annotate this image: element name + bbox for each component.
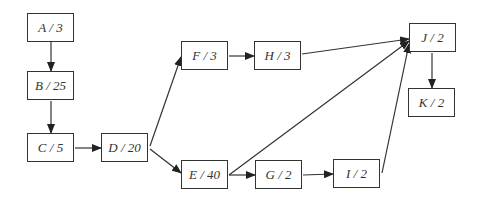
node-d: D / 20 xyxy=(101,133,148,162)
node-g-label: G / 2 xyxy=(266,167,292,183)
edge-h-j xyxy=(302,39,409,54)
node-i-label: I / 2 xyxy=(346,166,367,182)
node-k-label: K / 2 xyxy=(419,95,444,111)
edge-g-i xyxy=(303,174,333,175)
node-b: B / 25 xyxy=(27,71,74,100)
node-i: I / 2 xyxy=(333,159,380,188)
node-d-label: D / 20 xyxy=(108,140,141,156)
node-c-label: C / 5 xyxy=(38,140,63,156)
node-f: F / 3 xyxy=(181,41,228,70)
node-a: A / 3 xyxy=(27,13,74,42)
node-f-label: F / 3 xyxy=(192,48,217,64)
node-g: G / 2 xyxy=(255,160,302,189)
node-h-label: H / 3 xyxy=(265,48,291,64)
node-e: E / 40 xyxy=(181,160,228,189)
node-c: C / 5 xyxy=(27,133,74,162)
node-e-label: E / 40 xyxy=(189,167,220,183)
edge-d-f xyxy=(150,57,181,146)
node-j: J / 2 xyxy=(409,23,456,52)
node-b-label: B / 25 xyxy=(35,78,66,94)
node-j-label: J / 2 xyxy=(421,30,443,46)
node-k: K / 2 xyxy=(408,88,455,117)
node-h: H / 3 xyxy=(254,41,301,70)
node-a-label: A / 3 xyxy=(38,20,62,36)
edge-d-e xyxy=(150,149,181,173)
edge-i-j xyxy=(382,44,409,173)
